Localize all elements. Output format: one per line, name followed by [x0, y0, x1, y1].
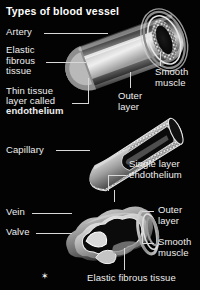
label-capillary: Capillary	[6, 145, 44, 156]
label-smooth-muscle-top: Smoothmuscle	[155, 67, 188, 88]
leader-line-vein	[32, 213, 72, 214]
leader-line-endothelium	[72, 103, 88, 104]
label-outer-layer-bottom: Outerlayer	[158, 205, 182, 226]
leader-line-outer-layer-top	[130, 72, 131, 88]
leader-line-capillary	[56, 150, 90, 151]
label-elastic-fibrous-tissue: Elasticfibroustissue	[6, 45, 35, 77]
vein-illustration	[52, 196, 170, 280]
leader-line-valve	[36, 233, 72, 234]
leader-line-smooth-muscle-bottom	[142, 243, 154, 244]
label-valve: Valve	[6, 227, 30, 238]
leader-line-elastic-fibrous-tissue	[46, 62, 86, 63]
label-endothelium: endothelium	[6, 106, 64, 117]
leader-line-endothelium-vertical	[88, 78, 89, 104]
scale-marker-icon: ✶	[41, 272, 49, 281]
leader-line-smooth-muscle-top	[160, 52, 161, 66]
leader-line-single-layer-endothelium-vertical	[108, 175, 109, 191]
leader-line-single-layer-endothelium	[108, 175, 126, 176]
label-artery: Artery	[6, 27, 32, 38]
leader-line-smooth-muscle-bottom-vertical	[142, 226, 143, 244]
leader-line-elastic-fibrous-tissue-bottom	[124, 248, 125, 270]
label-single-layer-endothelium: Single layerendothelium	[129, 159, 182, 180]
label-outer-layer-top: Outerlayer	[118, 91, 142, 112]
label-elastic-fibrous-tissue-bottom: Elastic fibrous tissue	[87, 273, 176, 284]
leader-line-artery	[44, 33, 108, 34]
label-vein: Vein	[6, 207, 25, 218]
blood-vessel-diagram: Types of blood vessel	[0, 0, 200, 290]
leader-line-vein-top	[114, 190, 115, 202]
leader-line-outer-layer-bottom	[142, 211, 154, 212]
label-smooth-muscle-bottom: Smoothmuscle	[158, 237, 191, 258]
